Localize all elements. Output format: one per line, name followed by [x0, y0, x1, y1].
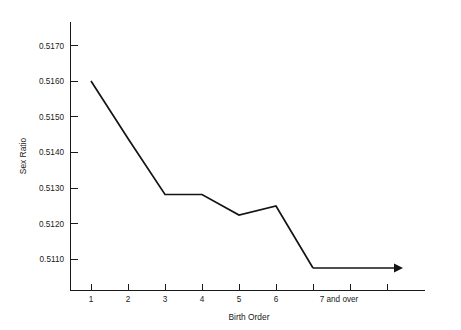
chart-figure: 0.5170 0.5160 0.5150 0.5140 0.5130 0.512…	[0, 0, 461, 330]
x-tick-label-7-and-over: 7 and over	[320, 295, 359, 304]
y-tick-label: 0.5140	[39, 148, 64, 157]
y-tick-label: 0.5130	[39, 184, 64, 193]
x-tick-label: 6	[274, 295, 279, 304]
x-tick-label: 3	[163, 295, 168, 304]
y-axis-tick-labels: 0.5170 0.5160 0.5150 0.5140 0.5130 0.512…	[39, 42, 64, 265]
y-tick-label: 0.5170	[39, 42, 64, 51]
y-tick-label: 0.5120	[39, 220, 64, 229]
x-axis-tick-labels: 1 2 3 4 5 6 7 and over	[89, 295, 359, 304]
sex-ratio-line-chart: 0.5170 0.5160 0.5150 0.5140 0.5130 0.512…	[0, 0, 461, 330]
y-tick-label: 0.5150	[39, 113, 64, 122]
y-tick-label: 0.5160	[39, 77, 64, 86]
x-axis-ticks	[92, 284, 388, 291]
x-tick-label: 4	[200, 295, 205, 304]
y-tick-label: 0.5110	[40, 255, 65, 264]
x-tick-label: 5	[237, 295, 242, 304]
data-series-line	[91, 81, 313, 268]
y-axis-ticks	[71, 46, 78, 260]
x-tick-label: 2	[126, 295, 131, 304]
x-axis-title: Birth Order	[229, 312, 270, 322]
arrow-head-icon	[394, 264, 403, 273]
y-axis-title: Sex Ratio	[18, 138, 28, 175]
x-tick-label: 1	[89, 295, 94, 304]
